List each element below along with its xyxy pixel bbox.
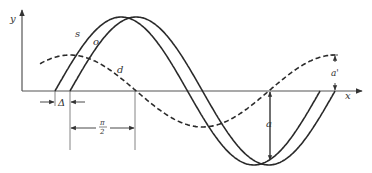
half-pi-dimension: π 2 [71,91,135,150]
half-pi-denominator: 2 [99,128,105,136]
x-axis-label: x [345,90,351,101]
phase-diagram: y x s o d Δ π 2 a a' [0,0,372,173]
delta-label: Δ [57,97,65,108]
label-s: s [75,28,80,39]
y-axis-label: y [9,13,16,24]
half-pi-numerator: π [99,119,105,127]
amplitude-a-prime-label: a' [331,68,339,78]
amplitude-a-label: a [266,118,272,129]
label-o: o [93,36,99,47]
amplitude-a-dimension: a [266,92,272,160]
delta-dimension: Δ [40,91,85,150]
label-d: d [117,64,123,75]
amplitude-a-prime-dimension: a' [330,55,339,90]
